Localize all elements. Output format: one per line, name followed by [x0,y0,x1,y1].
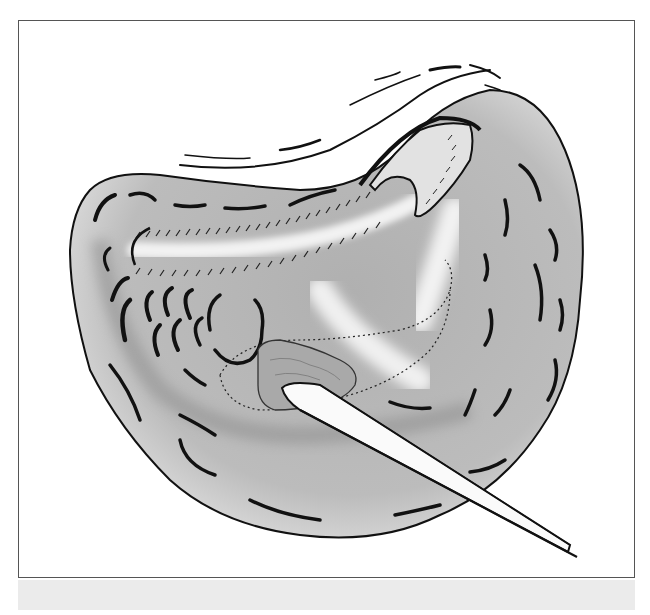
anatomical-illustration [0,0,650,615]
